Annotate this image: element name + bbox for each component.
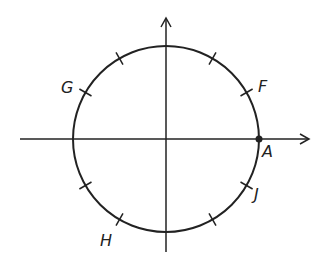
label-h: H [100, 231, 112, 250]
label-a: A [261, 142, 273, 161]
tick-mark [79, 89, 91, 96]
tick-mark [116, 213, 123, 225]
tick-mark [240, 89, 252, 96]
tick-mark [209, 213, 216, 225]
tick-mark [209, 52, 216, 64]
tick-mark [116, 52, 123, 64]
label-f: F [258, 77, 268, 96]
y-axis [161, 18, 171, 252]
unit-circle-diagram: A F G H J [0, 0, 332, 264]
tick-mark [79, 182, 91, 189]
label-g: G [61, 78, 73, 97]
label-j: J [251, 185, 259, 204]
tick-mark [240, 182, 252, 189]
